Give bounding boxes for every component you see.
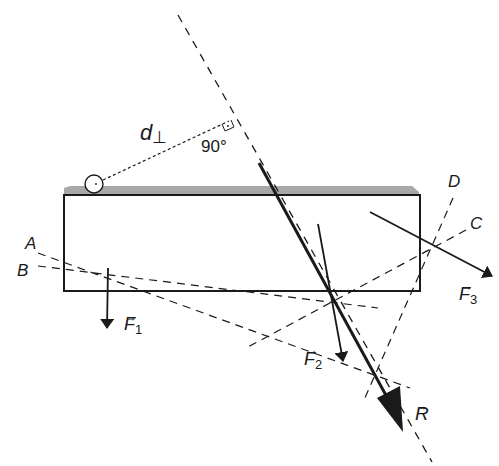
force-F1-arrow bbox=[107, 268, 108, 328]
label-F2: F2 bbox=[304, 349, 322, 372]
pivot-center-dot bbox=[95, 183, 97, 185]
resultant-R-arrowhead bbox=[377, 386, 403, 432]
right-angle-dot bbox=[227, 125, 229, 127]
force-diagram: d⊥ 90° A B C D → F1 → F2 → F3 → R bbox=[0, 0, 499, 466]
surface-strip bbox=[64, 186, 419, 195]
resultant-R-arrow bbox=[259, 163, 394, 410]
label-line-A: A bbox=[24, 234, 36, 253]
label-d-perp: d⊥ bbox=[140, 120, 167, 147]
label-R: R bbox=[415, 403, 429, 424]
pivot-point-icon bbox=[85, 175, 103, 193]
label-line-D: D bbox=[448, 172, 460, 191]
label-F1: F1 bbox=[124, 314, 142, 337]
label-line-C: C bbox=[470, 214, 483, 233]
label-line-B: B bbox=[17, 261, 28, 280]
rigid-block bbox=[64, 195, 420, 291]
label-F3: F3 bbox=[459, 284, 477, 307]
label-angle-90: 90° bbox=[201, 137, 227, 156]
dashed-line-D bbox=[364, 198, 453, 400]
